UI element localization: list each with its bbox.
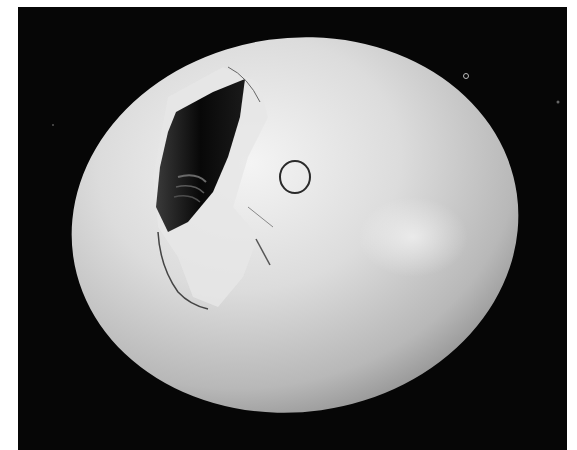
egg-shell	[47, 9, 543, 442]
egg-photograph	[18, 7, 567, 450]
egg-illustration	[18, 7, 567, 450]
